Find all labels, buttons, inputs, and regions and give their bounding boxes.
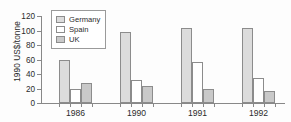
bar-uk-1991 [203,89,214,103]
legend-item-uk[interactable]: UK [56,35,100,44]
y-axis-tick [37,16,41,17]
bar-germany-1990 [120,32,131,103]
y-axis-tick-label: 0 [30,99,35,108]
y-axis-tick [37,89,41,90]
bar-spain-1992 [253,78,264,103]
x-axis-tick [181,104,182,107]
x-axis-tick [192,104,193,107]
x-axis-label-1991: 1991 [188,108,207,118]
x-axis-tick [131,104,132,107]
x-axis-tick [81,104,82,107]
bar-uk-1992 [264,91,275,103]
bar-uk-1986 [81,83,92,103]
x-axis-label-1986: 1986 [66,108,85,118]
y-axis-tick [37,45,41,46]
bar-chart: 1990 US$/tonne 020406080100120 198619901… [0,0,291,122]
bar-spain-1986 [70,89,81,104]
y-axis-title: 1990 US$/tonne [13,4,22,100]
x-axis-tick [120,104,121,107]
legend-label: UK [69,36,80,44]
bar-germany-1992 [242,28,253,103]
x-axis-tick [142,104,143,107]
legend-swatch-germany-icon [56,16,65,23]
bar-germany-1986 [59,60,70,103]
x-axis-tick [92,104,93,107]
x-axis-tick [203,104,204,107]
x-axis-tick [153,104,154,107]
y-axis-tick-label: 20 [26,84,35,93]
x-axis-label-1990: 1990 [127,108,146,118]
legend-item-germany[interactable]: Germany [56,15,100,24]
y-axis-tick [37,103,41,104]
legend: GermanySpainUK [51,10,106,49]
y-axis-tick-label: 100 [21,26,35,35]
y-axis-tick-label: 80 [26,41,35,50]
x-axis-tick [242,104,243,107]
y-axis-tick-label: 60 [26,55,35,64]
bar-spain-1990 [131,80,142,103]
x-axis-line [41,103,285,104]
legend-swatch-uk-icon [56,36,65,43]
legend-swatch-spain-icon [56,26,65,33]
legend-label: Spain [69,26,88,34]
x-axis-tick [70,104,71,107]
y-axis-tick-label: 40 [26,70,35,79]
x-axis-tick [275,104,276,107]
legend-label: Germany [69,16,100,24]
plot-area: 020406080100120 1986199019911992 Germany… [41,16,285,103]
bar-uk-1990 [142,86,153,103]
x-axis-label-1992: 1992 [249,108,268,118]
y-axis-tick [37,74,41,75]
x-axis-tick [264,104,265,107]
bar-spain-1991 [192,62,203,103]
y-axis-tick [37,60,41,61]
y-axis-tick-label: 120 [21,12,35,21]
y-axis-tick [37,31,41,32]
legend-item-spain[interactable]: Spain [56,25,100,34]
y-axis-line [41,16,42,103]
x-axis-tick [214,104,215,107]
x-axis-tick [253,104,254,107]
x-axis-tick [59,104,60,107]
bar-germany-1991 [181,28,192,103]
